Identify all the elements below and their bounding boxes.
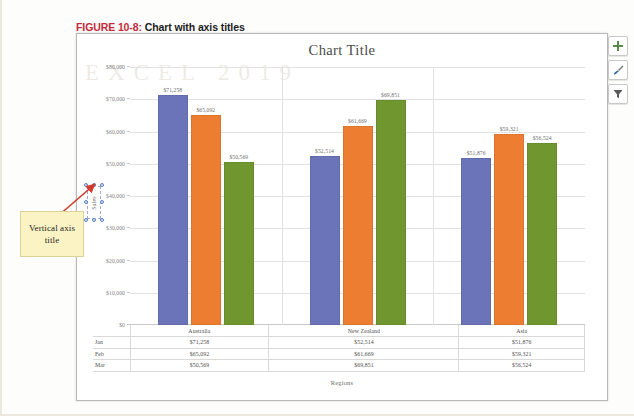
table-header-row: AustraliaNew ZealandAsia xyxy=(93,325,585,337)
table-row-label: Jan xyxy=(93,337,130,349)
bar-feb-new-zealand[interactable] xyxy=(343,126,373,325)
bar-mar-asia[interactable] xyxy=(527,143,557,325)
page-edge-left xyxy=(0,0,2,416)
vertical-axis-title-selected[interactable]: Sales xyxy=(87,186,101,219)
y-axis-tick-mark xyxy=(127,227,130,228)
annotation-callout: Vertical axis title xyxy=(20,211,84,257)
figure-caption: FIGURE 10-8: Chart with axis titles xyxy=(76,21,245,33)
chart-side-buttons[interactable] xyxy=(608,36,630,104)
data-label: $51,876 xyxy=(467,150,486,156)
bar-jan-australia[interactable] xyxy=(158,95,188,325)
selection-handle-tl[interactable] xyxy=(84,183,88,187)
page-root: FIGURE 10-8: Chart with axis titles EXCE… xyxy=(0,0,634,416)
y-axis-tick-mark xyxy=(127,163,130,164)
table-column-header: Asia xyxy=(459,325,585,337)
table-column-header: New Zealand xyxy=(269,325,459,337)
y-axis-tick: $80,000 xyxy=(106,64,125,70)
table-cell: $56,524 xyxy=(459,360,585,372)
data-label: $52,514 xyxy=(315,148,334,154)
table-cell: $59,321 xyxy=(459,348,585,360)
selection-handle-mr[interactable] xyxy=(100,200,104,204)
horizontal-axis-title[interactable]: Regions xyxy=(77,379,607,386)
table-row: Jan$71,258$52,514$51,876 xyxy=(93,337,585,349)
bar-jan-asia[interactable] xyxy=(461,158,491,325)
chart-filters-button[interactable] xyxy=(608,84,628,104)
annotation-text: Vertical axis title xyxy=(21,222,83,246)
table-column-header: Australia xyxy=(130,325,269,337)
selection-handle-br[interactable] xyxy=(100,218,104,222)
y-axis-tick-mark xyxy=(127,66,130,67)
bar-jan-new-zealand[interactable] xyxy=(310,156,340,325)
table-cell: $71,258 xyxy=(130,337,269,349)
y-axis-tick: $70,000 xyxy=(106,96,125,102)
table-row: Mar$50,569$69,851$56,524 xyxy=(93,360,585,372)
selection-handle-tc[interactable] xyxy=(92,183,96,187)
table-cell: $52,514 xyxy=(269,337,459,349)
funnel-icon xyxy=(612,88,624,100)
y-axis-tick-mark xyxy=(127,195,130,196)
figure-caption-text: Chart with axis titles xyxy=(145,21,245,33)
chart-frame[interactable]: EXCEL 2019 Chart Title $0$10,000$20,000$… xyxy=(76,33,608,401)
selection-handle-ml[interactable] xyxy=(84,200,88,204)
bar-mar-new-zealand[interactable] xyxy=(376,100,406,325)
data-label: $65,092 xyxy=(196,107,215,113)
selection-handle-bc[interactable] xyxy=(92,218,96,222)
paintbrush-icon xyxy=(612,64,625,77)
y-axis-tick-mark xyxy=(127,131,130,132)
table-cell: $50,569 xyxy=(130,360,269,372)
bar-feb-asia[interactable] xyxy=(494,134,524,325)
table-row-label: Mar xyxy=(93,360,130,372)
gridline xyxy=(130,99,585,100)
data-label: $61,669 xyxy=(348,118,367,124)
data-label: $59,321 xyxy=(500,126,519,132)
plot-area[interactable]: $0$10,000$20,000$30,000$40,000$50,000$60… xyxy=(130,67,585,325)
y-axis-tick-mark xyxy=(127,98,130,99)
table-corner-cell xyxy=(93,325,130,337)
gridline xyxy=(130,67,585,68)
data-label: $56,524 xyxy=(533,135,552,141)
chart-data-table: AustraliaNew ZealandAsiaJan$71,258$52,51… xyxy=(93,325,585,372)
table-cell: $65,092 xyxy=(130,348,269,360)
selection-handle-tr[interactable] xyxy=(100,183,104,187)
table-cell: $69,851 xyxy=(269,360,459,372)
table-cell: $61,669 xyxy=(269,348,459,360)
y-axis-tick: $30,000 xyxy=(106,225,125,231)
data-label: $50,569 xyxy=(229,154,248,160)
y-axis-tick-mark xyxy=(127,260,130,261)
chart-elements-button[interactable] xyxy=(608,36,628,56)
y-axis-tick: $40,000 xyxy=(106,193,125,199)
y-axis-tick: $20,000 xyxy=(106,258,125,264)
y-axis-tick-mark xyxy=(127,292,130,293)
chart-title[interactable]: Chart Title xyxy=(77,42,607,59)
category-separator xyxy=(282,67,283,325)
bar-feb-australia[interactable] xyxy=(191,115,221,325)
table-row-label: Feb xyxy=(93,348,130,360)
figure-number: FIGURE 10-8: xyxy=(76,21,142,33)
category-separator xyxy=(433,67,434,325)
data-label: $71,258 xyxy=(163,87,182,93)
y-axis-tick: $50,000 xyxy=(106,161,125,167)
plus-icon xyxy=(612,40,624,52)
table-cell: $51,876 xyxy=(459,337,585,349)
data-label: $69,851 xyxy=(381,92,400,98)
selection-handle-bl[interactable] xyxy=(84,218,88,222)
table-row: Feb$65,092$61,669$59,321 xyxy=(93,348,585,360)
vertical-axis-title-text: Sales xyxy=(91,196,97,210)
y-axis-tick: $10,000 xyxy=(106,290,125,296)
bar-mar-australia[interactable] xyxy=(224,162,254,325)
chart-styles-button[interactable] xyxy=(608,60,628,80)
y-axis-tick: $60,000 xyxy=(106,129,125,135)
